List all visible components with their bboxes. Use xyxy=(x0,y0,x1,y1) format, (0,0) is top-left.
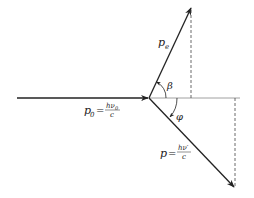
beta-angle-arc xyxy=(157,82,167,98)
beta-angle-label: β xyxy=(166,80,173,91)
svg-text:p: p xyxy=(158,36,165,49)
svg-text:=: = xyxy=(96,105,104,116)
svg-text:p: p xyxy=(160,147,167,160)
scattered-momentum-label: p = hν′ c xyxy=(160,144,191,161)
svg-text:e: e xyxy=(165,43,169,51)
svg-text:c: c xyxy=(110,111,114,119)
svg-text:0: 0 xyxy=(90,111,95,119)
incident-momentum-label: p 0 = hν 0 c xyxy=(84,102,120,119)
electron-momentum-label: p e xyxy=(158,36,169,51)
svg-text:=: = xyxy=(168,148,176,159)
phi-angle-label: φ xyxy=(176,111,183,122)
compton-vector-diagram: p 0 = hν 0 c p e β φ p = hν′ c xyxy=(0,0,254,198)
svg-text:hν′: hν′ xyxy=(178,144,189,152)
scattered-photon-vector xyxy=(149,98,234,187)
svg-text:c: c xyxy=(182,153,186,161)
